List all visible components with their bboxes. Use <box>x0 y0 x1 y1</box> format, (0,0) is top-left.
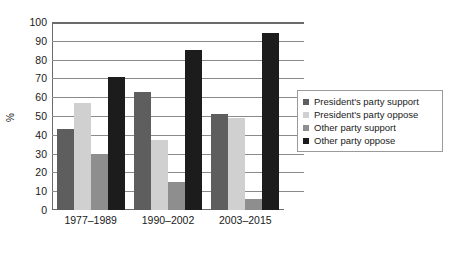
legend-swatch-icon <box>303 125 309 131</box>
y-axis-tick-label: 80 <box>35 54 47 66</box>
y-axis-tick-label: 100 <box>29 16 47 28</box>
legend-swatch-icon <box>303 99 309 105</box>
bar <box>151 140 168 210</box>
y-axis-tick-label: 30 <box>35 148 47 160</box>
bar-group <box>211 22 279 210</box>
bar-chart: % 0102030405060708090100 1977–19891990–2… <box>0 0 449 255</box>
bar <box>57 129 74 210</box>
bar <box>168 182 185 210</box>
y-axis-tick-label: 60 <box>35 91 47 103</box>
bar <box>108 77 125 210</box>
legend-item: President's party oppose <box>303 108 437 121</box>
legend-swatch-icon <box>303 112 309 118</box>
y-axis-tick-label: 70 <box>35 72 47 84</box>
legend-item: Other party support <box>303 121 437 134</box>
bar-group <box>134 22 202 210</box>
bar <box>211 114 228 210</box>
legend-swatch-icon <box>303 138 309 144</box>
bar-groups <box>52 22 284 210</box>
bar <box>228 118 245 210</box>
x-axis-tick-label: 2003–2015 <box>219 214 272 226</box>
x-axis-tick-label: 1990–2002 <box>142 214 195 226</box>
bar <box>74 103 91 210</box>
x-axis-tick-label: 1977–1989 <box>64 214 117 226</box>
y-axis-tick-label: 50 <box>35 110 47 122</box>
bar <box>91 154 108 210</box>
bar-group <box>57 22 125 210</box>
y-axis-tick-label: 40 <box>35 129 47 141</box>
legend-label: Other party oppose <box>314 134 395 147</box>
x-axis-tick-labels: 1977–19891990–20022003–2015 <box>52 214 284 226</box>
y-axis-tick-label: 20 <box>35 166 47 178</box>
bar <box>245 199 262 210</box>
y-axis-title: % <box>5 113 16 122</box>
y-axis-tick-label: 10 <box>35 185 47 197</box>
legend-item: Other party oppose <box>303 134 437 147</box>
legend-label: President's party oppose <box>314 108 418 121</box>
bar <box>134 92 151 210</box>
legend-label: President's party support <box>314 95 419 108</box>
y-axis-tick-label: 0 <box>41 204 47 216</box>
bar <box>262 33 279 210</box>
plot-area: 0102030405060708090100 <box>52 22 284 210</box>
chart-legend: President's party supportPresident's par… <box>297 90 443 152</box>
legend-item: President's party support <box>303 95 437 108</box>
legend-label: Other party support <box>314 121 396 134</box>
bar <box>185 50 202 210</box>
y-axis-tick-label: 90 <box>35 35 47 47</box>
